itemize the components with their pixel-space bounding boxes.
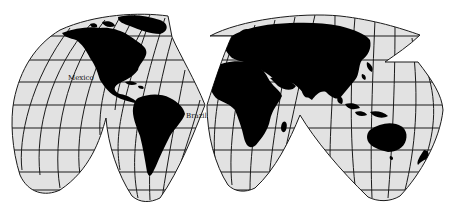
label-brazil: Brazil [186, 112, 208, 120]
map-svg: Mexico Brazil [0, 0, 451, 210]
label-mexico: Mexico [68, 74, 94, 82]
world-map: Mexico Brazil [0, 0, 451, 210]
